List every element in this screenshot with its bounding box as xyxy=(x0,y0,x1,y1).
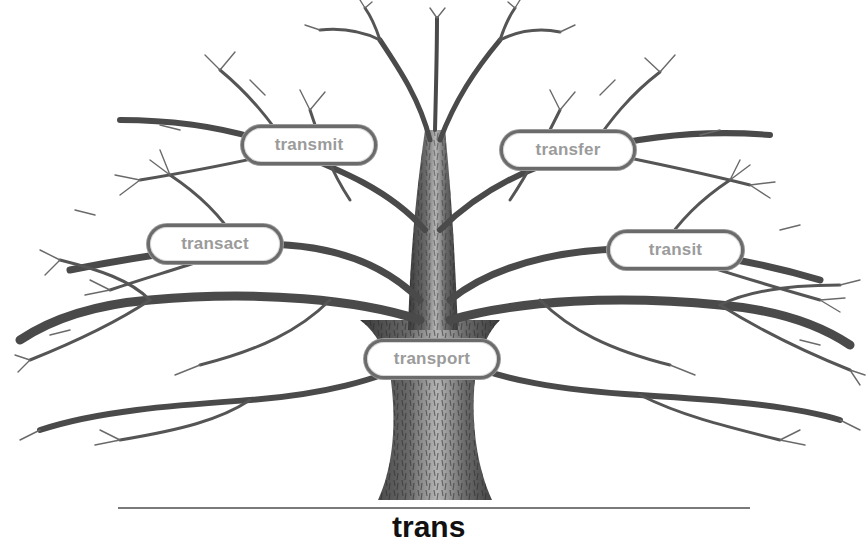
branch-label-transfer: transfer xyxy=(500,130,636,170)
branch-label-text: transport xyxy=(394,349,470,369)
branch-label-transmit: transmit xyxy=(241,125,377,165)
root-word-label: trans xyxy=(392,512,482,541)
branch-label-text: transit xyxy=(649,240,702,260)
branch-label-text: transfer xyxy=(536,140,601,160)
branch-label-text: transact xyxy=(181,234,249,254)
branch-label-text: transmit xyxy=(275,135,344,155)
branch-label-transit: transit xyxy=(607,230,744,270)
ground-divider xyxy=(118,507,750,509)
branch-label-transport: transport xyxy=(364,339,500,379)
branch-label-transact: transact xyxy=(147,224,283,264)
